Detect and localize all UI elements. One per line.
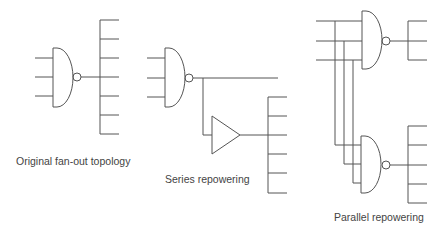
buffer-icon [212,116,240,154]
nand-gate-icon [362,11,382,69]
nand-gate-icon [361,136,381,193]
inversion-bubble-icon [382,37,390,45]
diagram-canvas [0,0,441,227]
original-topology [35,20,119,134]
parallel-topology [316,11,427,203]
nand-gate-icon [165,48,185,107]
parallel-label: Parallel repowering [334,211,424,223]
branch-wire [203,78,212,135]
series-topology [147,48,287,193]
original-label: Original fan-out topology [16,155,130,167]
nand-gate-icon [53,48,73,107]
series-label: Series repowering [165,173,250,185]
inversion-bubble-icon [185,74,193,82]
inversion-bubble-icon [382,161,390,169]
inversion-bubble-icon [73,73,81,81]
